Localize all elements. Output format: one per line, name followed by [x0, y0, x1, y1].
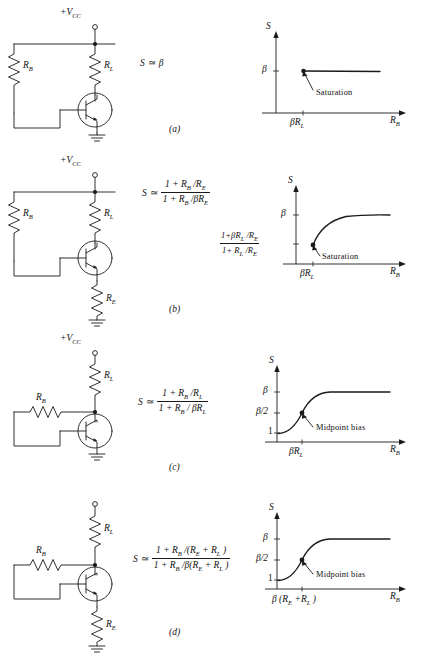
- caption-b: (b): [169, 304, 180, 314]
- graph-d-ytick-one: 1: [268, 574, 273, 584]
- graph-c-xtick-brl: βRL: [289, 447, 303, 458]
- graph-b-ytick-expression: 1+βRL /RE 1+ RL /RE: [219, 230, 260, 257]
- formula-d: S ≃ 1 + RB /(RE + RL ) 1 + RB /β(RE + RL…: [133, 545, 230, 573]
- graph-d-xlabel: RB: [390, 592, 400, 603]
- resistor-label-rl-b: RL: [104, 209, 113, 220]
- caption-c: (c): [169, 462, 180, 472]
- x-axis-arrow-d: [399, 586, 406, 591]
- formula-d-rel: ≃: [141, 553, 149, 564]
- figure-page: +VCC RB RL S ≃ β S RB β βRL Saturation (…: [0, 0, 422, 654]
- caption-a: (a): [169, 124, 180, 134]
- resistor-label-rb-d: RB: [36, 546, 46, 557]
- graph-a-ylabel: S: [266, 22, 271, 32]
- graph-b-ylabel: S: [288, 176, 293, 186]
- x-axis-arrow-c: [399, 439, 406, 444]
- panel-b-graphics: [0, 152, 422, 330]
- supply-terminal-c: [93, 351, 98, 356]
- supply-terminal-b: [93, 173, 98, 178]
- panel-a: +VCC RB RL S ≃ β S RB β βRL Saturation (…: [0, 0, 422, 152]
- graph-c-ytick-beta-half: β/2: [256, 407, 268, 417]
- y-axis-arrow-a: [273, 31, 278, 38]
- x-axis-arrow-a: [399, 110, 406, 115]
- graph-b-xlabel: RB: [390, 267, 400, 278]
- formula-a: S ≃ β: [140, 57, 163, 68]
- supply-label-a: +VCC: [60, 8, 81, 19]
- resistor-label-rl-c: RL: [104, 371, 113, 382]
- y-axis-arrow-d: [274, 512, 279, 519]
- formula-d-fraction: 1 + RB /(RE + RL ) 1 + RB /β(RE + RL ): [152, 545, 231, 573]
- graph-b-ytick-beta: β: [281, 209, 286, 219]
- graph-c-annotation: Midpoint bias: [316, 423, 365, 432]
- curve-a: [303, 71, 380, 72]
- x-axis-arrow-b: [399, 261, 406, 266]
- graph-c-ytick-one: 1: [268, 427, 273, 437]
- formula-d-lhs: S: [133, 554, 138, 564]
- formula-a-rhs: β: [159, 58, 164, 68]
- formula-b-denominator: 1 + RB /βRE: [161, 192, 210, 207]
- midpoint-arrow-d: [302, 561, 307, 566]
- curve-b: [313, 215, 390, 245]
- emitter-arrow-d: [93, 591, 97, 594]
- resistor-label-rb-c: RB: [36, 393, 46, 404]
- emitter-arrow-c: [93, 438, 97, 441]
- y-axis-arrow-c: [274, 365, 279, 372]
- resistor-label-rb-b: RB: [23, 209, 33, 220]
- graph-d-ytick-beta: β: [263, 533, 268, 543]
- graph-b-ytick-numerator: 1+βRL /RE: [219, 230, 260, 243]
- midpoint-arrow-c: [302, 414, 307, 419]
- supply-terminal-d: [93, 502, 98, 507]
- emitter-arrow-b: [93, 265, 97, 268]
- resistor-label-rl-d: RL: [104, 524, 113, 535]
- resistor-label-re-d: RE: [106, 620, 116, 631]
- supply-terminal-a: [93, 25, 98, 30]
- formula-a-lhs: S: [140, 58, 145, 68]
- formula-b-lhs: S: [142, 188, 147, 198]
- formula-c-numerator: 1 + RB /RL: [160, 388, 204, 401]
- graph-d: [265, 512, 406, 592]
- graph-c-ytick-beta: β: [263, 386, 268, 396]
- graph-d-ylabel: S: [269, 503, 274, 513]
- midpoint-dot-d: [300, 558, 305, 563]
- graph-b-annotation: Saturation: [322, 252, 358, 261]
- panel-c: +VCC RL RB S ≃ 1 + RB /RL 1 + RB / βRL S…: [0, 330, 422, 490]
- resistor-label-rb-a: RB: [23, 61, 33, 72]
- panel-c-graphics: [0, 330, 422, 490]
- graph-a-ytick-beta: β: [262, 65, 267, 75]
- graph-a-xlabel: RB: [390, 116, 400, 127]
- graph-b-ytick-fraction: 1+βRL /RE 1+ RL /RE: [219, 230, 260, 257]
- formula-b-rel: ≃: [150, 187, 158, 198]
- graph-a-xtick-brl: βRL: [290, 118, 304, 129]
- formula-c: S ≃ 1 + RB /RL 1 + RB / βRL: [138, 388, 208, 416]
- graph-d-annotation: Midpoint bias: [316, 570, 365, 579]
- resistor-label-re-b: RE: [106, 294, 116, 305]
- formula-c-rel: ≃: [146, 396, 154, 407]
- midpoint-dot-c: [300, 411, 305, 416]
- graph-b-ytick-denominator: 1+ RL /RE: [220, 243, 259, 257]
- formula-b: S ≃ 1 + RB /RE 1 + RB /βRE: [142, 179, 210, 207]
- circuit-a: [9, 25, 116, 141]
- formula-a-rel: ≃: [148, 57, 156, 68]
- graph-c-ylabel: S: [269, 356, 274, 366]
- circuit-c: [14, 351, 112, 460]
- formula-c-denominator: 1 + RB / βRL: [157, 401, 208, 416]
- panel-b: +VCC RB RL RE S ≃ 1 + RB /RE 1 + RB /βRE…: [0, 152, 422, 330]
- graph-a-annotation: Saturation: [316, 88, 352, 97]
- resistor-label-rl-a: RL: [104, 61, 113, 72]
- formula-b-fraction: 1 + RB /RE 1 + RB /βRE: [161, 179, 210, 207]
- supply-label-c: +VCC: [60, 334, 81, 345]
- panel-d: RL RB RE S ≃ 1 + RB /(RE + RL ) 1 + RB /…: [0, 490, 422, 654]
- graph-d-xtick-expression: β (RE +RL ): [272, 595, 316, 606]
- y-axis-arrow-b: [293, 185, 298, 192]
- graph-b-xtick-brl: βRL: [300, 269, 314, 280]
- formula-c-fraction: 1 + RB /RL 1 + RB / βRL: [157, 388, 208, 416]
- panel-a-graphics: [0, 0, 422, 152]
- circuit-d: [14, 502, 112, 652]
- graph-c-xlabel: RB: [390, 445, 400, 456]
- formula-d-denominator: 1 + RB /β(RE + RL ): [152, 558, 231, 573]
- formula-b-numerator: 1 + RB /RE: [163, 179, 208, 192]
- graph-d-ytick-beta-half: β/2: [256, 554, 268, 564]
- emitter-arrow-a: [93, 117, 97, 120]
- formula-c-lhs: S: [138, 397, 143, 407]
- graph-a: [262, 31, 406, 116]
- graph-c: [265, 365, 406, 445]
